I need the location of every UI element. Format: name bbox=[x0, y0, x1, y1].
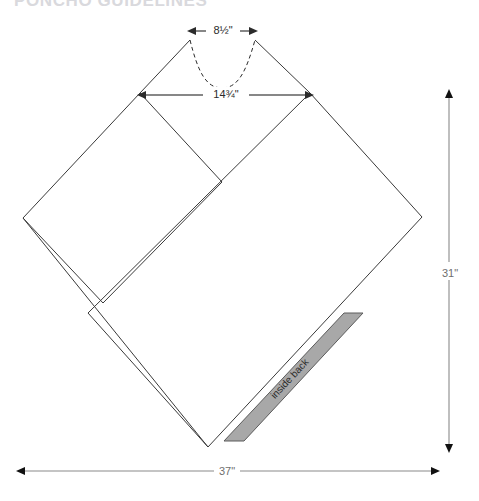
dimension-overall-width: 37" bbox=[25, 463, 431, 480]
folded-panel-outline bbox=[23, 93, 222, 303]
neck-scallop-path bbox=[190, 40, 255, 88]
neck-dimension-label: 8½" bbox=[213, 24, 232, 36]
width-dimension-label: 37" bbox=[219, 465, 235, 477]
center-fold-path bbox=[88, 93, 310, 313]
height-dimension-label: 31" bbox=[442, 267, 458, 279]
poncho-diagram: inside back 8½" 14¾" 31" 37" bbox=[0, 0, 479, 501]
diagram-page: PONCHO GUIDELINES bbox=[0, 0, 479, 501]
folded-panel-path bbox=[23, 93, 222, 303]
inside-back-label: inside back bbox=[268, 356, 311, 401]
dimension-inner-width: 14¾" bbox=[146, 87, 305, 102]
inner-width-dimension-label: 14¾" bbox=[213, 88, 238, 100]
neck-opening-dashed bbox=[190, 40, 255, 88]
dimension-overall-height: 31" bbox=[438, 98, 462, 444]
inside-back-panel: inside back bbox=[224, 313, 363, 441]
dimension-neck-opening: 8½" bbox=[196, 23, 249, 38]
lower-left-edge-path bbox=[88, 313, 208, 447]
